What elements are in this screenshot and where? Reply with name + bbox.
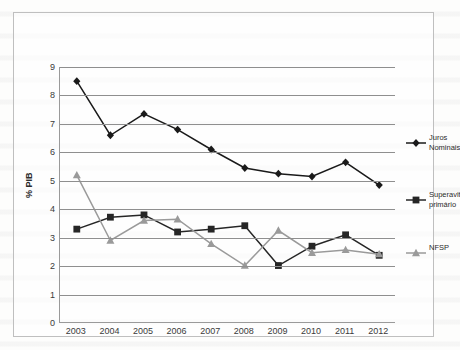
series-nfsp: [73, 171, 383, 269]
y-tick-label: 2: [33, 261, 55, 271]
x-tick-label: 2006: [167, 326, 187, 336]
x-tick-label: 2008: [234, 326, 254, 336]
data-point-marker: [376, 181, 383, 189]
legend-marker-triangle-icon: [406, 244, 426, 254]
gridline: [60, 238, 395, 239]
x-tick-label: 2007: [200, 326, 220, 336]
gridline: [60, 152, 395, 153]
chart-page: % PIB 0123456789 20032004200520062007200…: [0, 0, 460, 350]
series-juros-nominais: [73, 77, 383, 189]
y-tick-label: 6: [33, 147, 55, 157]
legend-label: NFSP: [429, 243, 449, 253]
gridline: [60, 67, 395, 68]
y-tick-label: 0: [33, 318, 55, 328]
series-line: [77, 175, 379, 265]
legend-item-juros-nominais[interactable]: Juros Nominais: [406, 133, 460, 152]
x-tick-label: 2009: [267, 326, 287, 336]
data-point-marker: [412, 139, 419, 147]
legend-label: Superavit primário: [429, 190, 460, 209]
gridline: [60, 181, 395, 182]
y-tick-label: 8: [33, 90, 55, 100]
gridline: [60, 124, 395, 125]
series-superavit-prim-rio: [73, 212, 382, 269]
data-point-marker: [208, 226, 215, 233]
y-tick-label: 7: [33, 119, 55, 129]
data-point-marker: [174, 229, 181, 236]
gridline: [60, 295, 395, 296]
y-tick-label: 3: [33, 233, 55, 243]
series-layer: [60, 67, 396, 323]
legend-item-nfsp[interactable]: NFSP: [406, 243, 449, 254]
data-point-marker: [342, 158, 349, 166]
data-point-marker: [140, 110, 147, 118]
x-tick-label: 2003: [66, 326, 86, 336]
gridline: [60, 266, 395, 267]
legend-label: Juros Nominais: [429, 133, 460, 152]
data-point-marker: [241, 222, 248, 229]
data-point-marker: [241, 164, 248, 172]
plot-area: [59, 67, 395, 323]
chart-frame: % PIB 0123456789 20032004200520062007200…: [13, 12, 434, 337]
y-tick-label: 4: [33, 204, 55, 214]
data-point-marker: [275, 170, 282, 178]
data-point-marker: [274, 226, 282, 233]
data-point-marker: [107, 214, 114, 221]
gridline: [60, 209, 395, 210]
legend-item-superavit-prim-rio[interactable]: Superavit primário: [406, 190, 460, 209]
data-point-marker: [308, 173, 315, 181]
data-point-marker: [73, 226, 80, 233]
data-point-marker: [413, 197, 420, 204]
data-point-marker: [73, 171, 81, 178]
data-point-marker: [174, 126, 181, 134]
y-axis-tick-labels: 0123456789: [29, 67, 55, 323]
y-tick-label: 9: [33, 62, 55, 72]
data-point-marker: [207, 240, 215, 247]
x-tick-label: 2004: [99, 326, 119, 336]
x-tick-label: 2012: [368, 326, 388, 336]
y-tick-label: 5: [33, 176, 55, 186]
x-tick-label: 2011: [335, 326, 354, 336]
legend-marker-diamond-icon: [406, 134, 426, 144]
legend-marker-square-icon: [406, 191, 426, 201]
x-tick-label: 2005: [133, 326, 153, 336]
x-tick-label: 2010: [301, 326, 321, 336]
x-axis-tick-labels: 2003200420052006200720082009201020112012: [59, 326, 395, 344]
y-tick-label: 1: [33, 290, 55, 300]
series-line: [77, 81, 379, 185]
series-line: [77, 215, 379, 266]
gridline: [60, 95, 395, 96]
